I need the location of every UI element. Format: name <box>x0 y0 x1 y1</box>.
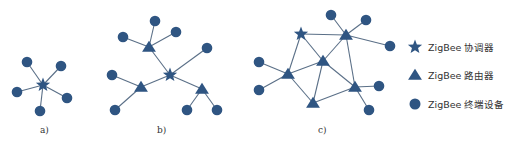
link-edge <box>313 61 323 103</box>
legend-item: ZigBee 协调器 <box>408 40 495 54</box>
end-device-circle-icon <box>12 87 23 98</box>
zigbee-topology-figure: a)b)c) ZigBee 协调器ZigBee 路由器ZigBee 终端设备 <box>0 0 506 147</box>
diagram-caption: b) <box>157 125 166 135</box>
end-device-circle-icon <box>150 16 161 27</box>
end-device-circle-icon <box>107 70 118 81</box>
diagram-caption: a) <box>40 125 49 135</box>
end-device-circle-icon <box>254 57 265 68</box>
legend-label: ZigBee 协调器 <box>428 42 494 53</box>
end-device-circle-icon <box>361 15 372 26</box>
end-device-circle-icon <box>254 85 265 96</box>
link-edge <box>301 34 346 35</box>
end-device-circle-icon <box>110 105 121 116</box>
link-edge <box>346 35 390 46</box>
star-icon <box>408 40 422 54</box>
diagram-c: c) <box>254 10 396 135</box>
end-device-circle-icon <box>118 32 129 43</box>
router-triangle-icon <box>195 83 209 94</box>
end-device-circle-icon <box>374 81 385 92</box>
topology-diagrams: a)b)c) <box>12 10 396 135</box>
router-triangle-icon <box>142 41 156 52</box>
link-edge <box>288 34 301 74</box>
diagram-a: a) <box>12 57 73 135</box>
end-device-circle-icon <box>182 105 193 116</box>
link-edge <box>170 48 207 75</box>
coordinator-star-icon <box>294 27 308 41</box>
end-device-circle-icon <box>62 93 73 104</box>
end-device-circle-icon <box>22 57 33 68</box>
router-triangle-icon <box>134 81 148 92</box>
link-edge <box>313 87 355 103</box>
end-device-circle-icon <box>202 43 213 54</box>
circle-icon <box>410 99 421 110</box>
legend-item: ZigBee 路由器 <box>408 69 494 81</box>
end-device-circle-icon <box>171 27 182 38</box>
legend-label: ZigBee 终端设备 <box>428 99 504 110</box>
coordinator-star-icon <box>163 68 177 82</box>
end-device-circle-icon <box>56 61 67 72</box>
diagram-caption: c) <box>318 125 327 135</box>
end-device-circle-icon <box>364 105 375 116</box>
link-edge <box>288 61 323 74</box>
link-edge <box>170 75 202 89</box>
legend: ZigBee 协调器ZigBee 路由器ZigBee 终端设备 <box>408 40 505 110</box>
legend-label: ZigBee 路由器 <box>428 70 494 81</box>
router-triangle-icon <box>339 29 353 40</box>
diagram-b: b) <box>107 16 223 135</box>
router-triangle-icon <box>281 68 295 79</box>
end-device-circle-icon <box>326 10 337 21</box>
link-edge <box>346 35 355 87</box>
end-device-circle-icon <box>212 105 223 116</box>
legend-item: ZigBee 终端设备 <box>410 99 505 110</box>
router-triangle-icon <box>306 97 320 108</box>
end-device-circle-icon <box>385 41 396 52</box>
router-triangle-icon <box>316 55 330 66</box>
end-device-circle-icon <box>35 106 46 117</box>
triangle-icon <box>408 69 422 80</box>
